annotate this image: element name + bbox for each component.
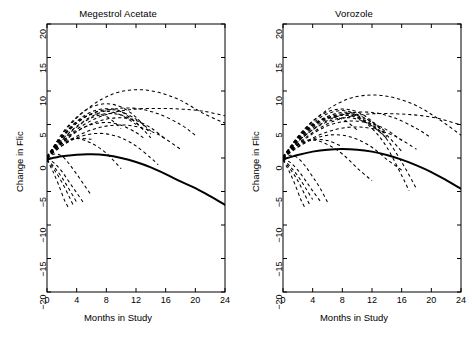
subject-profile-curve <box>47 90 225 157</box>
x-tick-label: 12 <box>122 295 150 305</box>
figure-root: Megestrol Acetate 04812162024−20−15−10−5… <box>0 0 472 339</box>
y-tick-label: −10 <box>273 225 285 245</box>
x-tick-label: 8 <box>328 295 356 305</box>
x-tick-label: 8 <box>92 295 120 305</box>
y-axis-label: Change in Flic <box>14 131 25 192</box>
y-tick-label: −10 <box>37 225 49 245</box>
x-tick-label: 20 <box>181 295 209 305</box>
x-tick-label: 4 <box>63 295 91 305</box>
y-tick-label: −15 <box>37 259 49 279</box>
y-tick-label: 5 <box>273 125 285 145</box>
subject-profile-curve <box>283 111 409 191</box>
subject-profile-curve <box>47 122 143 156</box>
axes-frame <box>283 24 461 292</box>
y-tick-label: −5 <box>273 192 285 212</box>
population-average-curve <box>283 149 461 189</box>
y-tick-label: 0 <box>273 158 285 178</box>
y-tick-label: 15 <box>273 58 285 78</box>
y-tick-label: 5 <box>37 125 49 145</box>
panel-megestrol-acetate: Megestrol Acetate 04812162024−20−15−10−5… <box>0 0 236 339</box>
x-axis-label: Months in Study <box>236 312 472 323</box>
x-tick-label: 16 <box>152 295 180 305</box>
y-tick-label: −5 <box>37 192 49 212</box>
axes-frame <box>47 24 225 292</box>
y-tick-label: 15 <box>37 58 49 78</box>
x-tick-label: 24 <box>211 295 239 305</box>
subject-profile-curve <box>283 160 305 208</box>
y-tick-label: 20 <box>273 24 285 44</box>
plot-area-left <box>0 0 236 339</box>
y-tick-label: −20 <box>273 292 285 312</box>
x-tick-label: 4 <box>299 295 327 305</box>
x-tick-label: 12 <box>358 295 386 305</box>
plot-area-right <box>236 0 472 339</box>
subject-profile-curve <box>47 104 151 158</box>
subject-profile-curve <box>283 135 402 170</box>
x-tick-label: 16 <box>388 295 416 305</box>
y-tick-label: 20 <box>37 24 49 44</box>
population-average-curve <box>47 154 225 205</box>
y-tick-label: −15 <box>273 259 285 279</box>
panel-vorozole: Vorozole 04812162024−20−15−10−505101520M… <box>236 0 472 339</box>
x-tick-label: 20 <box>417 295 445 305</box>
y-tick-label: 10 <box>37 91 49 111</box>
y-tick-label: 10 <box>273 91 285 111</box>
subject-profile-curve <box>283 115 417 189</box>
y-tick-label: 0 <box>37 158 49 178</box>
x-axis-label: Months in Study <box>0 312 236 323</box>
y-axis-label: Change in Flic <box>250 131 261 192</box>
x-tick-label: 24 <box>447 295 472 305</box>
y-tick-label: −20 <box>37 292 49 312</box>
